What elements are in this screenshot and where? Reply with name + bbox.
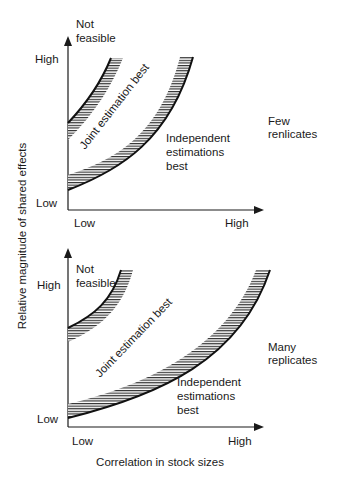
y-axis-arrow-icon bbox=[64, 36, 72, 46]
condition-label: Few bbox=[268, 115, 290, 127]
boundary-line-joint-independent bbox=[68, 270, 270, 418]
condition-label-2: replicates bbox=[268, 354, 317, 366]
x-tick-high: High bbox=[228, 435, 252, 447]
x-axis-label: Correlation in stock sizes bbox=[96, 456, 224, 468]
region-independent-label-2: estimations bbox=[166, 146, 224, 158]
region-independent-label: Independent bbox=[177, 376, 242, 388]
y-tick-low: Low bbox=[37, 413, 59, 425]
panel-few-replicates: Not feasible High Low Low High Joint est… bbox=[35, 18, 317, 229]
region-not-feasible-label: Not bbox=[76, 18, 95, 30]
diagram-canvas: Relative magnitude of shared effects Not… bbox=[0, 0, 338, 486]
boundary-band-joint-independent bbox=[68, 270, 270, 418]
condition-label: Many bbox=[268, 341, 296, 353]
region-not-feasible-label-2: feasible bbox=[76, 32, 116, 44]
y-axis-arrow-icon bbox=[64, 248, 72, 258]
y-tick-low: Low bbox=[36, 197, 58, 209]
region-independent-label-2: estimations bbox=[177, 390, 235, 402]
region-not-feasible-label-2: feasible bbox=[76, 277, 116, 289]
y-tick-high: High bbox=[35, 53, 59, 65]
x-tick-high: High bbox=[225, 217, 249, 229]
x-tick-low: Low bbox=[72, 435, 94, 447]
region-not-feasible-label: Not bbox=[76, 263, 95, 275]
region-independent-label: Independent bbox=[166, 132, 231, 144]
region-independent-label-3: best bbox=[166, 160, 189, 172]
x-axis-arrow-icon bbox=[254, 423, 264, 431]
panel-many-replicates: Not feasible High Low Low High Joint est… bbox=[37, 248, 317, 447]
y-axis-label: Relative magnitude of shared effects bbox=[16, 143, 28, 330]
region-independent-label-3: best bbox=[177, 404, 200, 416]
y-tick-high: High bbox=[37, 279, 61, 291]
x-tick-low: Low bbox=[74, 217, 96, 229]
x-axis-arrow-icon bbox=[254, 206, 264, 214]
condition-label-2: renlicates bbox=[268, 128, 317, 140]
